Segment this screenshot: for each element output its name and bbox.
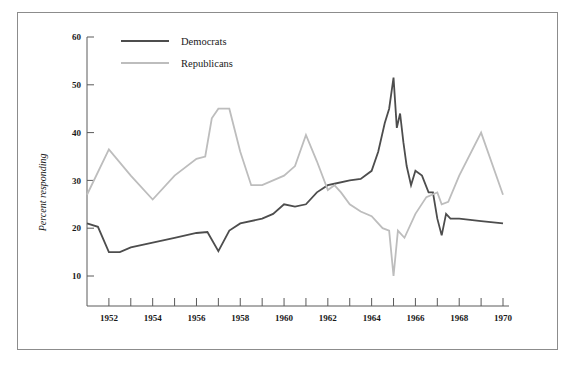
x-tick-label: 1960 (275, 313, 294, 323)
y-tick-label: 10 (72, 271, 82, 281)
y-axis-title: Percent responding (37, 153, 48, 232)
y-tick-label: 20 (72, 223, 82, 233)
x-tick-label: 1958 (231, 313, 250, 323)
x-tick-label: 1956 (187, 313, 206, 323)
x-tick-label: 1952 (100, 313, 119, 323)
chart-page: 1020304050601952195419561958196019621964… (0, 0, 576, 366)
y-tick-label: 30 (72, 176, 82, 186)
line-chart: 1020304050601952195419561958196019621964… (18, 13, 557, 349)
series-line-republicans (87, 109, 503, 276)
legend-label-democrats: Democrats (181, 36, 226, 47)
x-tick-label: 1954 (144, 313, 163, 323)
legend-label-republicans: Republicans (181, 58, 233, 69)
x-tick-label: 1962 (319, 313, 338, 323)
x-tick-label: 1970 (494, 313, 513, 323)
y-tick-label: 50 (72, 80, 82, 90)
y-tick-label: 60 (72, 32, 82, 42)
figure-border: 1020304050601952195419561958196019621964… (17, 12, 558, 350)
y-tick-label: 40 (72, 128, 82, 138)
x-tick-label: 1968 (450, 313, 469, 323)
x-tick-label: 1966 (406, 313, 425, 323)
x-tick-label: 1964 (363, 313, 382, 323)
